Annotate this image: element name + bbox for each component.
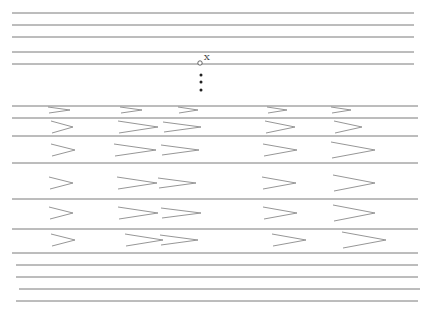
double-chevron-first <box>114 144 156 156</box>
chevron <box>48 107 70 113</box>
chevron-marks <box>48 107 386 248</box>
chevron <box>267 107 287 113</box>
double-chevron-second <box>161 145 199 155</box>
chevron <box>342 232 386 248</box>
continuation-dot <box>200 81 203 84</box>
marker-label: X <box>204 53 210 62</box>
double-chevron-first <box>118 207 158 219</box>
chevron <box>263 207 297 219</box>
chevron <box>51 144 75 156</box>
chevron <box>265 121 295 133</box>
chevron <box>333 205 375 221</box>
chevron <box>163 122 201 132</box>
chevron <box>263 144 297 156</box>
horizontal-lines <box>12 13 420 301</box>
chevron <box>49 177 73 189</box>
chevron <box>334 121 362 133</box>
continuation-dot <box>200 74 203 77</box>
chevron <box>331 142 375 158</box>
chevron <box>178 107 198 113</box>
double-chevron-second <box>158 178 196 188</box>
chevron <box>118 121 158 133</box>
chevron <box>120 107 142 113</box>
chevron <box>51 121 73 133</box>
chevron <box>262 177 296 189</box>
double-chevron-first <box>117 177 157 189</box>
continuation-dots <box>200 74 203 92</box>
layer-diagram: X <box>0 0 432 321</box>
chevron <box>333 175 375 191</box>
open-circle-marker <box>198 61 202 65</box>
double-chevron-second <box>160 235 198 245</box>
continuation-dot <box>200 89 203 92</box>
double-chevron-first <box>125 234 163 246</box>
chevron <box>49 207 73 219</box>
marker-group: X <box>198 53 210 65</box>
chevron <box>272 234 306 246</box>
chevron <box>51 234 75 246</box>
double-chevron-second <box>161 208 201 218</box>
chevron <box>331 107 351 113</box>
